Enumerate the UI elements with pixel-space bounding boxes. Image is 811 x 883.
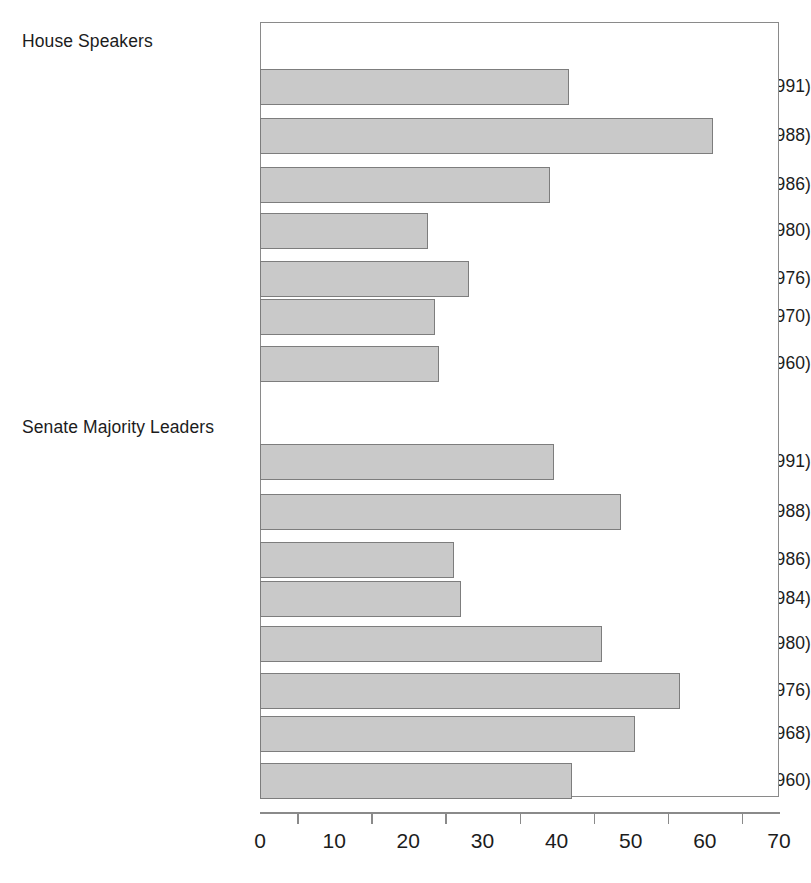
x-axis-minor-tick — [594, 812, 596, 824]
bar — [260, 763, 572, 799]
x-axis-tick-label: 70 — [767, 830, 790, 851]
x-axis-minor-tick — [445, 812, 447, 824]
bar — [260, 626, 602, 662]
bar-chart: House SpeakersFoley (1989–1991)Wright (1… — [0, 0, 811, 883]
bar — [260, 581, 461, 617]
bar — [260, 716, 635, 752]
bar — [260, 118, 713, 154]
x-axis-tick-label: 20 — [397, 830, 420, 851]
bar — [260, 167, 550, 203]
x-axis-minor-tick — [371, 812, 373, 824]
bar — [260, 261, 469, 297]
x-axis-minor-tick — [297, 812, 299, 824]
group-heading: Senate Majority Leaders — [22, 419, 214, 437]
bar — [260, 494, 621, 530]
x-axis-tick-label: 60 — [693, 830, 716, 851]
bar — [260, 542, 454, 578]
bar — [260, 69, 569, 105]
bar — [260, 213, 428, 249]
group-heading: House Speakers — [22, 33, 153, 51]
x-axis-tick-label: 0 — [254, 830, 266, 851]
x-axis-minor-tick — [668, 812, 670, 824]
x-axis-tick-label: 30 — [471, 830, 494, 851]
x-axis-tick-label: 50 — [619, 830, 642, 851]
x-axis-minor-tick — [520, 812, 522, 824]
x-axis-minor-tick — [742, 812, 744, 824]
bar — [260, 444, 554, 480]
plot-area — [260, 22, 779, 797]
bar — [260, 346, 439, 382]
bar — [260, 673, 680, 709]
bar — [260, 299, 435, 335]
x-axis-tick-label: 10 — [322, 830, 345, 851]
x-axis-tick-label: 40 — [545, 830, 568, 851]
